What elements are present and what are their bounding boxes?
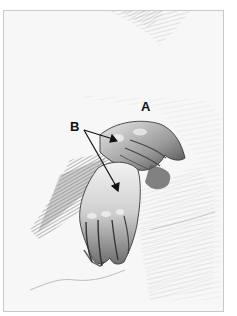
label-a: A [141, 100, 150, 113]
hands-pencil-drawing [0, 0, 237, 316]
label-b: B [70, 120, 79, 133]
drawing-figure: A B [0, 0, 237, 316]
top-sketch-strokes [110, 11, 190, 45]
